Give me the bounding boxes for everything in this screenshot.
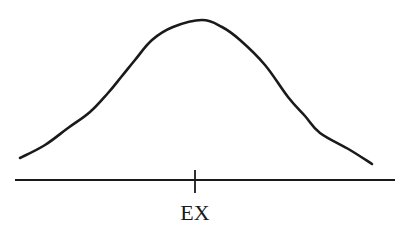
- expected-value-label: EX: [180, 200, 209, 225]
- density-curve: [20, 20, 372, 164]
- density-curve-diagram: EX: [0, 0, 403, 237]
